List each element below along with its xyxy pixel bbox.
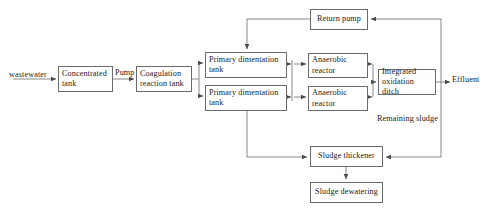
node-anaerobic-reactor-2[interactable]: Anaerobic reactor (308, 86, 368, 111)
node-primary-dimentation-tank-2[interactable]: Primary dimentation tank (205, 85, 287, 111)
edge-return-pump-to-primary1 (247, 19, 310, 49)
node-anaerobic-reactor-1[interactable]: Anaerobic reactor (308, 53, 368, 78)
node-label-sludge-thickener: Sludge thickener (318, 151, 375, 161)
node-label-primary-dimentation-tank-2: Primary dimentation tank (209, 88, 283, 109)
node-integrated-oxidation-ditch[interactable]: Integrated oxidation ditch (378, 69, 436, 95)
node-sludge-thickener[interactable]: Sludge thickener (310, 146, 383, 167)
label-effluent: Effluent (452, 75, 479, 85)
node-concentrated-tank[interactable]: Concentrated tank (58, 66, 113, 92)
node-primary-dimentation-tank-1[interactable]: Primary dimentation tank (205, 52, 287, 78)
node-return-pump[interactable]: Return pump (310, 9, 368, 30)
node-sludge-dewatering[interactable]: Sludge dewatering (310, 182, 383, 203)
edge-primary2-to-thickener (247, 111, 307, 157)
node-label-anaerobic-reactor-2: Anaerobic reactor (312, 88, 364, 109)
label-remaining-sludge: Remaining sludge (377, 114, 438, 124)
label-wastewater-inlet: wastewater (9, 70, 47, 80)
process-flow-diagram: Concentrated tank Coagulation reaction t… (0, 0, 490, 211)
node-label-concentrated-tank: Concentrated tank (62, 69, 109, 90)
node-coagulation-reaction-tank[interactable]: Coagulation reaction tank (136, 66, 192, 92)
label-pump: Pump (115, 68, 135, 78)
node-label-primary-dimentation-tank-1: Primary dimentation tank (209, 55, 283, 76)
node-label-anaerobic-reactor-1: Anaerobic reactor (312, 55, 364, 76)
node-label-integrated-oxidation-ditch: Integrated oxidation ditch (382, 67, 432, 98)
node-label-coagulation-reaction-tank: Coagulation reaction tank (140, 69, 188, 90)
node-label-return-pump: Return pump (317, 14, 361, 24)
node-label-sludge-dewatering: Sludge dewatering (315, 187, 378, 197)
